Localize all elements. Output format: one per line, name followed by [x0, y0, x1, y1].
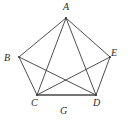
graph-edge-bd	[19, 57, 96, 95]
vertex-label-d: D	[93, 98, 100, 108]
graph-edge-ce	[37, 57, 110, 95]
graph-vertex-b	[18, 56, 20, 58]
graph-edge-ad	[66, 18, 96, 95]
graph-figure: ABCDE G	[0, 0, 128, 125]
vertex-label-b: B	[4, 53, 10, 63]
graph-caption: G	[60, 106, 67, 116]
graph-edge-bc	[19, 57, 37, 95]
graph-edge-ae	[66, 18, 110, 57]
vertex-label-e: E	[111, 48, 117, 58]
vertex-label-a: A	[63, 2, 69, 12]
vertex-label-c: C	[31, 98, 38, 108]
graph-vertex-c	[36, 94, 38, 96]
graph-edges	[19, 18, 110, 95]
graph-vertex-a	[65, 17, 67, 19]
graph-vertex-d	[95, 94, 97, 96]
